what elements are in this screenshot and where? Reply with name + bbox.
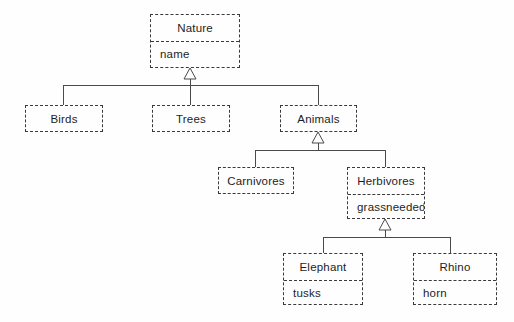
- generalization-arrow-nature: [184, 68, 196, 79]
- class-box-nature[interactable]: Nature name: [150, 14, 240, 68]
- class-box-animals[interactable]: Animals: [280, 105, 357, 132]
- uml-class-diagram-canvas: Nature name Birds Trees Animals Carnivor…: [0, 0, 514, 322]
- generalization-arrow-herbivores: [379, 219, 391, 230]
- class-name-carnivores: Carnivores: [219, 168, 293, 195]
- class-name-herbivores: Herbivores: [348, 168, 424, 195]
- class-name-birds: Birds: [26, 106, 102, 133]
- class-box-birds[interactable]: Birds: [25, 105, 103, 132]
- class-name-animals: Animals: [281, 106, 356, 133]
- class-box-trees[interactable]: Trees: [152, 105, 230, 132]
- class-box-elephant[interactable]: Elephant tusks: [283, 253, 363, 305]
- class-name-elephant: Elephant: [284, 254, 362, 281]
- class-name-rhino: Rhino: [414, 254, 496, 281]
- class-box-carnivores[interactable]: Carnivores: [218, 167, 294, 194]
- class-attribute-nature-name: name: [151, 42, 239, 67]
- class-attribute-rhino-horn: horn: [414, 281, 496, 306]
- class-box-herbivores[interactable]: Herbivores grassneeded: [347, 167, 425, 219]
- generalization-arrow-animals: [312, 132, 324, 143]
- class-attribute-herbivores-grassneeded: grassneeded: [348, 195, 424, 220]
- class-attribute-elephant-tusks: tusks: [284, 281, 362, 306]
- class-box-rhino[interactable]: Rhino horn: [413, 253, 497, 305]
- class-name-trees: Trees: [153, 106, 229, 133]
- class-name-nature: Nature: [151, 15, 239, 42]
